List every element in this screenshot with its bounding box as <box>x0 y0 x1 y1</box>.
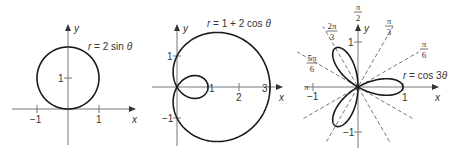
angle-label-150: 5π6 <box>307 53 318 74</box>
angle-label-pi: π <box>304 82 309 92</box>
y-axis-arrow-icon <box>355 24 361 31</box>
svg-text:π: π <box>356 2 361 12</box>
equation-label: r = 2 sin θ <box>88 41 133 52</box>
y-tick-label: 1 <box>167 51 173 62</box>
y-tick-label: −1 <box>162 113 174 124</box>
y-axis-arrow-icon <box>174 24 180 31</box>
svg-text:2π: 2π <box>327 21 337 31</box>
svg-text:π: π <box>387 16 392 26</box>
y-tick-label: 1 <box>348 37 354 48</box>
angle-label-60: π3 <box>385 16 393 37</box>
angle-label-pi-over-2: π2 <box>354 2 362 23</box>
angle-label-30: π6 <box>420 39 428 60</box>
x-tick-label: 1 <box>209 83 215 94</box>
svg-text:π: π <box>422 39 427 49</box>
svg-text:6: 6 <box>422 50 427 60</box>
x-axis-label: x <box>131 114 138 125</box>
angle-ray-60 <box>327 26 394 141</box>
svg-text:6: 6 <box>310 64 315 74</box>
y-axis-label: y <box>73 23 80 34</box>
panel-limacon: xy1231−1r = 1 + 2 cos θ <box>152 18 285 146</box>
x-tick-label: 3 <box>262 83 268 94</box>
y-tick-label: −1 <box>343 127 355 138</box>
x-axis-arrow-icon <box>432 84 439 90</box>
y-axis-label: y <box>363 23 370 34</box>
equation-label: r = cos 3θ <box>403 70 448 81</box>
x-axis-label: x <box>434 92 441 103</box>
svg-text:2: 2 <box>356 13 361 23</box>
y-axis-label: y <box>182 23 189 34</box>
svg-text:3: 3 <box>330 32 335 42</box>
svg-text:3: 3 <box>387 27 392 37</box>
panel-rose: xy−111−1r = cos 3θπ6π32π35π6π2π <box>297 2 447 148</box>
polar-graphs-figure: xy−111r = 2 sin θxy1231−1r = 1 + 2 cos θ… <box>0 0 449 157</box>
x-tick-label: −1 <box>307 91 319 102</box>
x-tick-label: 1 <box>96 114 102 125</box>
x-axis-arrow-icon <box>129 106 136 112</box>
equation-label: r = 1 + 2 cos θ <box>207 18 271 29</box>
angle-label-120: 2π3 <box>327 21 338 42</box>
x-tick-label: 1 <box>402 92 408 103</box>
x-tick-label: −1 <box>30 114 42 125</box>
y-axis-arrow-icon <box>65 24 71 31</box>
x-axis-label: x <box>278 92 285 103</box>
svg-text:5π: 5π <box>307 53 317 63</box>
x-axis-arrow-icon <box>276 84 283 90</box>
panel-circle: xy−111r = 2 sin θ <box>12 23 138 145</box>
x-tick-label: 2 <box>236 92 242 103</box>
y-tick-label: 1 <box>58 73 64 84</box>
